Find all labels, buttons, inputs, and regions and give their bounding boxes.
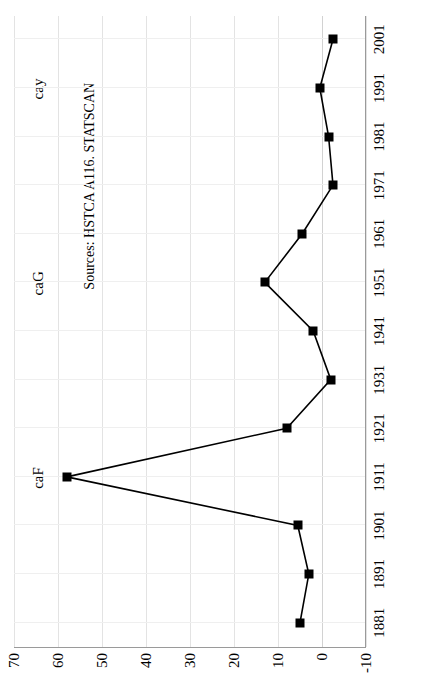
- value-tick-label: 10: [271, 653, 286, 668]
- year-tick-label: 1931: [372, 365, 387, 395]
- year-tick-label: 1961: [372, 219, 387, 249]
- data-point-marker: [62, 472, 71, 481]
- data-point-marker: [304, 570, 313, 579]
- gridline: [366, 16, 367, 647]
- value-tick-label: 70: [7, 653, 22, 668]
- year-tick-label: 1891: [372, 559, 387, 589]
- plot-area: 706050403020100-10 188118911901191119211…: [14, 16, 366, 648]
- data-point-marker: [293, 521, 302, 530]
- data-point-marker: [309, 327, 318, 336]
- data-point-marker: [296, 618, 305, 627]
- year-tick-label: 1951: [372, 267, 387, 297]
- year-tick-label: 1991: [372, 73, 387, 103]
- year-tick-label: 1901: [372, 510, 387, 540]
- year-tick-label: 1881: [372, 608, 387, 638]
- value-tick-label: 30: [183, 653, 198, 668]
- year-tick-label: 2001: [372, 24, 387, 54]
- year-tick-label: 1911: [372, 462, 387, 491]
- value-tick-label: 20: [227, 653, 242, 668]
- data-point-marker: [282, 424, 291, 433]
- data-point-marker: [329, 181, 338, 190]
- year-tick-label: 1981: [372, 122, 387, 152]
- value-tick-label: 60: [51, 653, 66, 668]
- data-point-marker: [260, 278, 269, 287]
- year-tick-label: 1921: [372, 413, 387, 443]
- rotated-figure-canvas: caF caG cay Sources: HSTCA A116. STATSCA…: [0, 0, 422, 694]
- year-tick-label: 1971: [372, 170, 387, 200]
- data-point-marker: [329, 35, 338, 44]
- data-point-marker: [298, 229, 307, 238]
- year-tick-label: 1941: [372, 316, 387, 346]
- data-point-marker: [326, 375, 335, 384]
- value-tick-label: 0: [315, 653, 330, 661]
- value-tick-label: -10: [359, 653, 374, 673]
- value-tick-label: 40: [139, 653, 154, 668]
- value-tick-label: 50: [95, 653, 110, 668]
- data-point-marker: [315, 83, 324, 92]
- data-point-marker: [324, 132, 333, 141]
- chart-page: caF caG cay Sources: HSTCA A116. STATSCA…: [0, 0, 422, 694]
